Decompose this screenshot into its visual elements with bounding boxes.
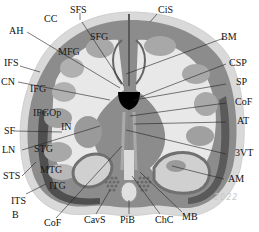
right-gyrus-2 — [194, 92, 218, 116]
third-ventricle — [124, 150, 134, 180]
label-3vt: 3VT — [235, 148, 253, 158]
label-cn: CN — [1, 77, 15, 87]
label-cavs: CavS — [84, 215, 106, 225]
label-cc: CC — [44, 14, 57, 24]
hippocampal-region — [154, 152, 209, 193]
ifg-gyrus — [52, 82, 76, 102]
right-gyrus-3 — [186, 126, 214, 146]
label-b: B — [12, 210, 19, 220]
label-chc: ChC — [155, 215, 173, 225]
amygdala — [166, 160, 186, 172]
label-cof-bottom: CoF — [44, 218, 61, 228]
label-sf: SF — [4, 126, 15, 136]
label-cis: CiS — [158, 5, 173, 15]
label-pib: PiB — [120, 215, 135, 225]
label-ah: AH — [9, 26, 23, 36]
label-ifs: IFS — [4, 58, 18, 68]
label-ifg: IFG — [30, 84, 46, 94]
label-sfs: SFS — [70, 5, 87, 15]
label-cof-right: CoF — [235, 97, 252, 107]
label-am: AM — [228, 174, 244, 184]
label-mfg: MFG — [58, 47, 80, 57]
label-csp: CSP — [229, 58, 247, 68]
watermark: 2022 — [214, 193, 238, 202]
fornix-right — [134, 112, 136, 170]
label-ln: LN — [2, 145, 15, 155]
label-stg: STG — [34, 144, 53, 154]
right-gyrus-1 — [182, 64, 210, 84]
label-sfg: SFG — [90, 32, 108, 42]
label-ifgop: IFGOp — [33, 108, 61, 118]
label-mb: MB — [182, 212, 198, 222]
label-sts: STS — [3, 171, 20, 181]
brain-coronal-diagram: CC SFS CiS AH SFG BM MFG IFS CSP CN SP I… — [0, 0, 259, 232]
insula — [74, 116, 102, 148]
pituitary-body — [121, 182, 137, 202]
mfg-gyrus — [60, 58, 84, 78]
sfg-gyrus-right — [144, 36, 176, 56]
label-bm: BM — [221, 32, 237, 42]
label-at: AT — [237, 116, 249, 126]
label-sp: SP — [236, 77, 247, 87]
label-itg: ITG — [49, 181, 66, 191]
label-its: ITS — [11, 196, 26, 206]
fornix-left — [122, 112, 124, 170]
label-in: IN — [61, 122, 72, 132]
label-mtg: MTG — [40, 165, 62, 175]
